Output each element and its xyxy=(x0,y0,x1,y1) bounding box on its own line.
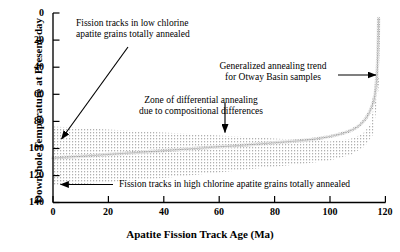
annotation-differential-zone: Zone of differential annealing due to co… xyxy=(136,95,266,116)
annotation-low-chlorine-line2: apatite grains totally annealed xyxy=(76,29,190,40)
annotation-differential-zone-line1: Zone of differential annealing xyxy=(136,95,266,106)
x-axis-title: Apatite Fission Track Age (Ma) xyxy=(0,228,400,240)
annotation-high-chlorine: Fission tracks in high chlorine apatite … xyxy=(119,179,350,190)
x-tick-label-40: 40 xyxy=(150,206,178,217)
y-tick-label-60: 60 xyxy=(16,88,44,99)
annotation-otway-trend-line1: Generalized annealing trend xyxy=(212,61,334,72)
y-tick-label-120: 120 xyxy=(16,169,44,180)
annotation-otway-trend-line2: for Otway Basin samples xyxy=(212,72,334,83)
y-tick-label-100: 100 xyxy=(16,142,44,153)
y-tick-label-40: 40 xyxy=(16,61,44,72)
y-tick-label-20: 20 xyxy=(16,34,44,45)
y-tick-label-0: 0 xyxy=(16,7,44,18)
arrow-low-chlorine xyxy=(62,47,129,139)
x-tick-label-120: 120 xyxy=(371,206,399,217)
annotation-low-chlorine-line1: Fission tracks in low chlorine xyxy=(76,18,190,29)
x-tick-label-80: 80 xyxy=(261,206,289,217)
x-axis-ticks xyxy=(53,196,385,203)
x-tick-label-0: 0 xyxy=(39,206,67,217)
annotation-low-chlorine: Fission tracks in low chlorine apatite g… xyxy=(76,18,190,39)
x-tick-label-20: 20 xyxy=(94,206,122,217)
annotation-otway-trend: Generalized annealing trend for Otway Ba… xyxy=(212,61,334,82)
fission-track-annealing-chart: Down-hole Temperature at Present-day 0 2… xyxy=(0,0,400,252)
y-tick-label-80: 80 xyxy=(16,115,44,126)
annotation-high-chlorine-line1: Fission tracks in high chlorine apatite … xyxy=(119,179,350,190)
x-tick-label-100: 100 xyxy=(316,206,344,217)
x-tick-label-60: 60 xyxy=(205,206,233,217)
differential-annealing-band xyxy=(53,77,380,186)
annotation-differential-zone-line2: due to compositional differences xyxy=(136,106,266,117)
